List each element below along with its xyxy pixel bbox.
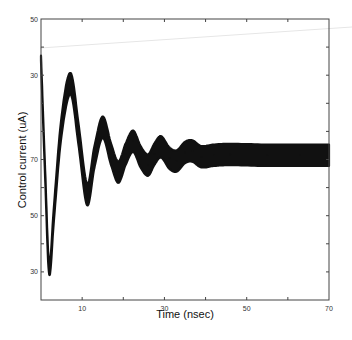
data-point-25: [266, 154, 268, 156]
data-point-10: [110, 153, 112, 155]
data-point-7: [86, 194, 88, 196]
y-axis-title: Control current (uA): [16, 112, 28, 209]
data-point-6: [78, 136, 80, 138]
data-point-5: [70, 83, 72, 85]
data-point-14: [140, 156, 142, 158]
data-point-1: [44, 173, 46, 175]
y-tick-label-4: 30: [30, 268, 38, 275]
data-point-11: [118, 171, 120, 173]
data-point-3: [53, 209, 55, 211]
y-tick-label-1: 30: [30, 72, 38, 79]
x-tick-label-2: 50: [243, 305, 251, 312]
series-band-0: [41, 56, 329, 275]
data-point-17: [160, 146, 162, 148]
data-point-23: [213, 154, 215, 156]
y-tick-label-3: 50: [30, 212, 38, 219]
chart: 103050705030705030 Time (nsec) Control c…: [0, 0, 352, 340]
data-point-12: [125, 153, 127, 155]
data-point-4: [61, 125, 63, 127]
data-point-21: [192, 150, 194, 152]
series-layer: [40, 56, 330, 275]
data-point-18: [169, 157, 171, 159]
data-point-24: [229, 154, 231, 156]
y-tick-label-2: 70: [30, 156, 38, 163]
x-tick-label-3: 70: [325, 305, 333, 312]
data-point-8: [94, 156, 96, 158]
x-tick-label-0: 10: [78, 305, 86, 312]
data-point-16: [154, 153, 156, 155]
x-axis-title: Time (nsec): [156, 308, 214, 320]
data-point-19: [176, 160, 178, 162]
data-point-26: [299, 154, 301, 156]
data-point-22: [201, 156, 203, 158]
scan-artifact-line: [40, 27, 352, 48]
data-point-15: [147, 164, 149, 166]
data-point-2: [48, 268, 50, 270]
data-point-20: [184, 152, 186, 154]
data-point-9: [102, 126, 104, 128]
y-tick-label-0: 50: [30, 16, 38, 23]
data-point-13: [132, 140, 134, 142]
